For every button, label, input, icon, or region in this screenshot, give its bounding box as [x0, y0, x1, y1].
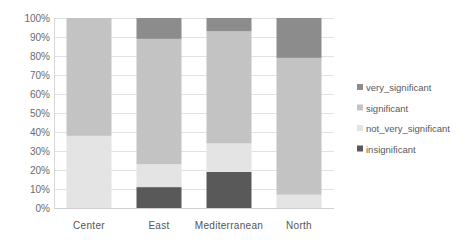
bar-segment-not-very-significant	[207, 143, 252, 172]
bar-segment-very-significant	[137, 18, 182, 39]
y-tick-label: 50%	[30, 108, 50, 119]
y-tick-label: 100%	[24, 13, 50, 24]
y-tick-label: 10%	[30, 184, 50, 195]
legend-label: insignificant	[366, 144, 416, 155]
bar-segment-insignificant	[207, 172, 252, 208]
x-tick-label: East	[148, 220, 169, 231]
legend-label: significant	[366, 103, 409, 114]
x-tick-label: Center	[73, 220, 105, 231]
x-tick-label: Mediterranean	[195, 220, 263, 231]
legend-label: not_very_significant	[366, 123, 450, 134]
x-tick-label: North	[286, 220, 312, 231]
y-tick-label: 60%	[30, 89, 50, 100]
y-tick-label: 20%	[30, 165, 50, 176]
y-tick-label: 80%	[30, 51, 50, 62]
bar-segment-insignificant	[137, 187, 182, 208]
legend-swatch	[357, 125, 363, 131]
y-tick-label: 30%	[30, 146, 50, 157]
y-axis-ticks: 0%10%20%30%40%50%60%70%80%90%100%	[24, 13, 50, 214]
y-tick-label: 0%	[36, 203, 51, 214]
legend: very_significantsignificantnot_very_sign…	[357, 82, 450, 155]
legend-swatch	[357, 146, 363, 152]
bar-segment-very-significant	[277, 18, 322, 58]
bar-segment-not-very-significant	[67, 136, 112, 208]
bar-segment-significant	[207, 31, 252, 143]
bar-segment-significant	[277, 58, 322, 195]
y-tick-label: 90%	[30, 32, 50, 43]
y-tick-label: 70%	[30, 70, 50, 81]
y-tick-label: 40%	[30, 127, 50, 138]
x-axis-labels: CenterEastMediterraneanNorth	[73, 220, 312, 231]
legend-label: very_significant	[366, 82, 432, 93]
legend-swatch	[357, 84, 363, 90]
bar-segment-significant	[67, 18, 112, 136]
bar-segment-very-significant	[207, 18, 252, 31]
stacked-bar-chart: 0%10%20%30%40%50%60%70%80%90%100% Center…	[0, 0, 474, 243]
bar-segment-significant	[137, 39, 182, 164]
bar-segment-not-very-significant	[137, 164, 182, 187]
bar-segment-not-very-significant	[277, 195, 322, 208]
legend-swatch	[357, 105, 363, 111]
